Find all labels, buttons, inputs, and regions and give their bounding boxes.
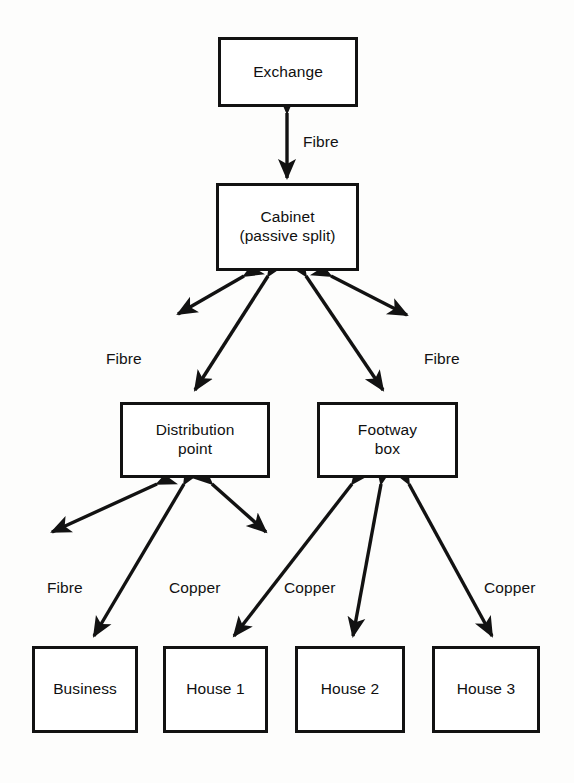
node-house-3-label: House 3 bbox=[457, 680, 515, 699]
connection-footway-box-to-house-3 bbox=[409, 484, 492, 636]
edge-label-fibre-distribution-point-business: Fibre bbox=[47, 579, 83, 597]
node-cabinet-sublabel: (passive split) bbox=[239, 227, 335, 246]
edge-label-text: Copper bbox=[484, 579, 535, 596]
edge-label-text: Copper bbox=[169, 579, 220, 596]
edge-label-text: Fibre bbox=[303, 133, 339, 150]
connection-footway-box-to-house-2 bbox=[353, 484, 381, 636]
edge-label-text: Fibre bbox=[424, 350, 460, 367]
edge-label-fibre-cabinet-left: Fibre bbox=[106, 350, 142, 368]
connection-cabinet-to-right-outer bbox=[331, 276, 407, 315]
edge-label-copper-distribution-point-house-1: Copper bbox=[169, 579, 220, 597]
node-footway-box[interactable]: Footway box bbox=[317, 402, 458, 478]
node-exchange-label: Exchange bbox=[253, 63, 323, 82]
node-cabinet[interactable]: Cabinet (passive split) bbox=[216, 183, 359, 271]
node-business-label: Business bbox=[53, 680, 117, 699]
connection-distribution-point-to-business bbox=[94, 484, 184, 636]
connection-footway-box-to-house-1 bbox=[234, 484, 352, 636]
node-footway-box-sublabel: box bbox=[375, 440, 400, 459]
node-distribution-point[interactable]: Distribution point bbox=[120, 402, 270, 478]
edge-label-copper-footway-box-house-3: Copper bbox=[484, 579, 535, 597]
edge-label-fibre-exchange-cabinet: Fibre bbox=[303, 133, 339, 151]
connection-distribution-point-to-house-1 bbox=[212, 484, 266, 532]
connection-cabinet-to-distribution-point bbox=[195, 276, 268, 390]
edge-label-text: Fibre bbox=[47, 579, 83, 596]
node-exchange[interactable]: Exchange bbox=[218, 37, 358, 107]
scan-artifact bbox=[40, 748, 46, 765]
scan-artifact bbox=[370, 8, 376, 25]
node-house-2[interactable]: House 2 bbox=[295, 646, 405, 733]
connection-cabinet-to-left-outer bbox=[178, 276, 244, 314]
node-house-3[interactable]: House 3 bbox=[432, 646, 540, 733]
connection-cabinet-to-footway-box bbox=[306, 276, 383, 390]
node-house-1[interactable]: House 1 bbox=[163, 646, 268, 733]
edge-label-fibre-cabinet-right: Fibre bbox=[424, 350, 460, 368]
node-business[interactable]: Business bbox=[32, 646, 138, 733]
node-footway-box-label: Footway bbox=[358, 421, 417, 440]
connection-distribution-point-to-left-outer bbox=[52, 484, 157, 532]
edge-label-text: Copper bbox=[284, 579, 335, 596]
edge-label-text: Fibre bbox=[106, 350, 142, 367]
node-distribution-point-sublabel: point bbox=[178, 440, 212, 459]
network-diagram: Exchange Cabinet (passive split) Distrib… bbox=[0, 0, 574, 783]
node-house-2-label: House 2 bbox=[321, 680, 379, 699]
node-house-1-label: House 1 bbox=[186, 680, 244, 699]
node-distribution-point-label: Distribution bbox=[156, 421, 235, 440]
edge-label-copper-footway-box-house-1: Copper bbox=[284, 579, 335, 597]
node-cabinet-label: Cabinet bbox=[260, 208, 314, 227]
